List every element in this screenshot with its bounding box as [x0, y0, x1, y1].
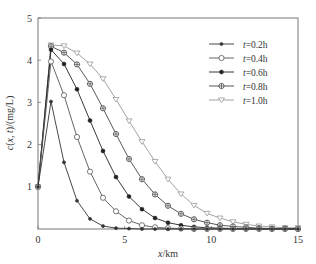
series-t-0-2h: [36, 100, 299, 231]
x-tick-label: 10: [206, 234, 216, 245]
x-tick-label: 0: [36, 234, 41, 245]
x-axis-label: x/km: [157, 248, 178, 259]
legend-item: t=0.4h: [209, 54, 268, 64]
y-tick-label: 2: [27, 139, 32, 150]
concentration-chart: 12345 051015 t=0.2ht=0.4ht=0.6ht=0.8ht=1…: [0, 0, 316, 264]
plot-frame: [38, 18, 298, 229]
x-tick-label: 15: [293, 234, 303, 245]
legend-label: t=1.0h: [243, 96, 268, 106]
y-tick-label: 3: [27, 97, 32, 108]
legend-item: t=0.2h: [209, 40, 268, 50]
x-tick-label: 5: [122, 234, 127, 245]
legend-item: t=1.0h: [209, 96, 268, 106]
legend-label: t=0.8h: [243, 82, 268, 92]
legend-item: t=0.8h: [209, 82, 268, 92]
legend-label: t=0.6h: [243, 68, 268, 78]
legend-item: t=0.6h: [209, 68, 268, 78]
y-axis-label: c(x, t)/(mg/L): [4, 96, 16, 150]
legend-label: t=0.2h: [243, 40, 268, 50]
legend-label: t=0.4h: [243, 54, 268, 64]
y-axis-ticks: 12345: [27, 13, 41, 193]
y-tick-label: 1: [27, 181, 32, 192]
y-tick-label: 4: [27, 55, 32, 66]
y-tick-label: 5: [27, 13, 32, 24]
legend: t=0.2ht=0.4ht=0.6ht=0.8ht=1.0h: [209, 40, 268, 106]
